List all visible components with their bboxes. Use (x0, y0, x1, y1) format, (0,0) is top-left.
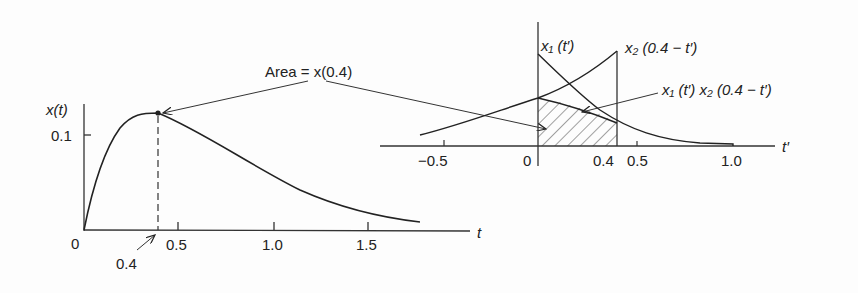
shaded-area (538, 98, 617, 146)
right-x-label: t′ (782, 139, 789, 154)
x-of-t-curve (84, 113, 420, 230)
convolution-diagram: Area = x(0.4) x(t) 0.1 t 0 0.5 1.0 1.5 0… (0, 0, 858, 293)
left-x-tick-0: 0 (71, 236, 79, 251)
left-x-tick-1.0: 1.0 (262, 237, 283, 252)
arrow-0.4 (137, 235, 155, 250)
right-x-tick-1.0: 1.0 (721, 153, 742, 168)
left-y-label: x(t) (46, 102, 68, 117)
left-plot (84, 104, 470, 250)
left-x-tick-1.5: 1.5 (356, 237, 377, 252)
right-x-tick-0: 0 (523, 153, 531, 168)
right-x-tick-neg0.5: −0.5 (418, 153, 448, 168)
x1-label: x₁ (t′) (541, 38, 574, 53)
arrow-to-peak (163, 81, 308, 113)
product-label: x₁ (t′) x₂ (0.4 − t′) (662, 82, 772, 97)
left-y-tick-0.1: 0.1 (51, 128, 72, 143)
right-x-tick-0.4: 0.4 (593, 153, 614, 168)
marker-label-0.4: 0.4 (116, 256, 137, 271)
diagram-graphics (0, 0, 858, 293)
arrow-to-area (326, 81, 546, 129)
left-x-axis (84, 230, 470, 231)
area-label: Area = x(0.4) (265, 64, 352, 79)
left-x-tick-0.5: 0.5 (166, 237, 187, 252)
x2-label: x₂ (0.4 − t′) (625, 40, 697, 55)
right-x-tick-0.5: 0.5 (627, 153, 648, 168)
peak-point (155, 110, 160, 115)
arrow-to-product (582, 93, 658, 112)
left-x-label: t (477, 225, 481, 240)
